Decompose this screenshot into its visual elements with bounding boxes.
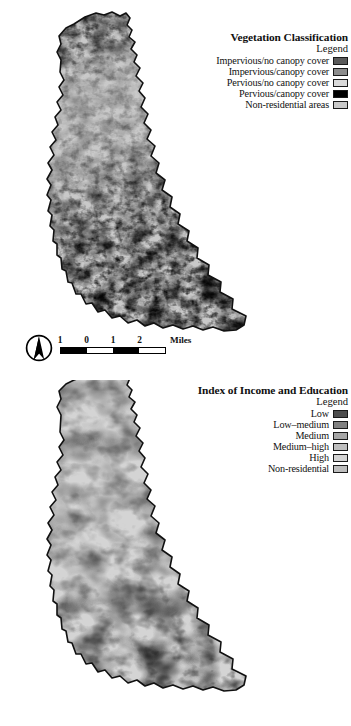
legend-item-label: Medium — [295, 431, 329, 441]
panel-vegetation-classification: Vegetation Classification Legend Impervi… — [0, 0, 351, 380]
legend-item-non-residential: Non-residential — [138, 464, 348, 474]
legend-rows-vegetation: Impervious/no canopy cover Impervious/ca… — [138, 56, 348, 110]
scale-segment — [113, 348, 139, 353]
legend-vegetation: Vegetation Classification Legend Impervi… — [138, 32, 348, 111]
legend-rows-index: Low Low–medium Medium Medium–high High — [138, 409, 348, 474]
legend-item-label: Medium–high — [273, 442, 329, 452]
legend-swatch — [333, 68, 348, 76]
legend-item-non-residential-areas: Non-residential areas — [138, 100, 348, 110]
scale-tick-label: 1 — [111, 335, 116, 346]
legend-title-vegetation: Vegetation Classification — [138, 32, 348, 43]
scale-and-north-group: 1 0 1 2 Miles — [24, 331, 184, 371]
legend-item-label: Non-residential areas — [245, 100, 329, 110]
scale-segment — [87, 348, 113, 353]
legend-swatch — [333, 410, 348, 418]
legend-index: Index of Income and Education Legend Low… — [138, 385, 348, 475]
legend-item-label: Pervious/canopy cover — [239, 89, 329, 99]
legend-item-low-medium: Low–medium — [138, 420, 348, 430]
scale-bar: 1 0 1 2 Miles — [60, 335, 180, 346]
legend-swatch — [333, 465, 348, 473]
legend-item-high: High — [138, 453, 348, 463]
legend-item-label: Impervious/no canopy cover — [216, 56, 329, 66]
legend-subtitle-index: Legend — [138, 397, 348, 408]
legend-item-impervious-no-canopy: Impervious/no canopy cover — [138, 56, 348, 66]
legend-item-label: Pervious/no canopy cover — [227, 78, 329, 88]
scale-tick-label: 1 — [58, 335, 63, 346]
scale-bar-segments — [60, 347, 166, 354]
scale-segment — [61, 348, 87, 353]
scale-tick-labels: 1 0 1 2 Miles — [60, 335, 166, 346]
legend-item-label: Non-residential — [268, 464, 329, 474]
legend-item-pervious-canopy: Pervious/canopy cover — [138, 89, 348, 99]
scale-tick-label: 0 — [84, 335, 89, 346]
legend-swatch — [333, 421, 348, 429]
scale-tick-label: 2 — [137, 335, 142, 346]
legend-swatch — [333, 443, 348, 451]
legend-item-pervious-no-canopy: Pervious/no canopy cover — [138, 78, 348, 88]
legend-item-low: Low — [138, 409, 348, 419]
legend-item-label: High — [309, 453, 329, 463]
scale-units-label: Miles — [170, 335, 191, 346]
legend-swatch — [333, 101, 348, 109]
legend-item-impervious-canopy: Impervious/canopy cover — [138, 67, 348, 77]
legend-swatch — [333, 432, 348, 440]
panel-index-of-income-and-education: Index of Income and Education Legend Low… — [0, 380, 351, 726]
legend-item-medium-high: Medium–high — [138, 442, 348, 452]
scale-segment — [139, 348, 165, 353]
legend-title-index: Index of Income and Education — [138, 385, 348, 396]
legend-subtitle-vegetation: Legend — [138, 44, 348, 55]
legend-swatch — [333, 454, 348, 462]
legend-item-label: Impervious/canopy cover — [229, 67, 329, 77]
legend-swatch — [333, 57, 348, 65]
legend-item-label: Low–medium — [273, 420, 329, 430]
north-arrow-icon — [24, 333, 54, 363]
legend-swatch — [333, 79, 348, 87]
legend-swatch — [333, 90, 348, 98]
legend-item-medium: Medium — [138, 431, 348, 441]
map-figure: Vegetation Classification Legend Impervi… — [0, 0, 351, 726]
legend-item-label: Low — [311, 409, 329, 419]
